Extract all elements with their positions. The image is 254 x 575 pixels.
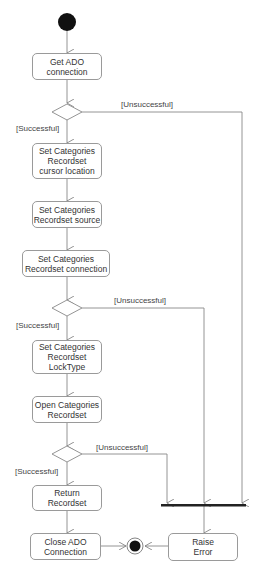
- action-open-recordset: Open Categories Recordset: [32, 396, 102, 423]
- action-set-source: Set Categories Recordset source: [32, 201, 102, 228]
- action-get-ado-connection: Get ADO connection: [32, 53, 102, 80]
- decision-node-1: [52, 104, 82, 120]
- action-set-locktype: Set Categories Recordset LockType: [32, 340, 102, 374]
- decision-node-2: [52, 300, 82, 316]
- action-close-ado-connection: Close ADO Connection: [30, 533, 101, 560]
- guard-successful-3: [Successful]: [15, 467, 58, 476]
- action-raise-error: Raise Error: [168, 533, 238, 561]
- guard-unsuccessful-1: [Unsuccessful]: [121, 100, 173, 109]
- action-return-recordset: Return Recordset: [32, 485, 102, 511]
- guard-unsuccessful-3: [Unsuccessful]: [96, 443, 148, 452]
- initial-node: [58, 13, 76, 31]
- action-set-cursor-location: Set Categories Recordset cursor location: [32, 143, 102, 179]
- guard-unsuccessful-2: [Unsuccessful]: [114, 296, 166, 305]
- action-set-connection: Set Categories Recordset connection: [22, 250, 110, 277]
- guard-successful-1: [Successful]: [16, 124, 59, 133]
- decision-node-3: [52, 446, 82, 462]
- guard-successful-2: [Successful]: [16, 321, 59, 330]
- join-bar: [161, 504, 246, 507]
